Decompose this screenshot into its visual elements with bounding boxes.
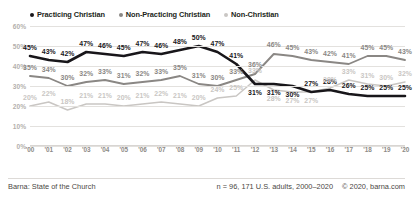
data-label-nonchristian: 20% [192,95,206,102]
data-label-nonpracticing: 45% [379,45,393,52]
data-label-nonchristian: 18% [61,99,75,106]
data-label-nonpracticing: 31% [192,73,206,80]
y-axis-tick-label: 20% [13,103,26,110]
chart-footer: Barna: State of the Church n = 96, 171 U… [8,182,405,191]
data-label-practicing: 47% [79,41,93,48]
x-axis-tick-label: '11 [232,146,240,153]
x-axis-tick-label: '18 [363,146,372,153]
data-label-nonchristian: 33% [248,68,262,75]
data-label-practicing: 25% [398,85,412,92]
x-axis-tick-label: '07 [157,146,166,153]
data-label-nonpracticing: 33% [98,69,112,76]
footer-meta: n = 96, 171 U.S. adults, 2000–2020 © 202… [217,182,405,191]
data-label-nonchristian: 33% [342,69,356,76]
data-label-nonpracticing: 32% [79,71,93,78]
data-label-nonchristian: 30% [379,75,393,82]
y-axis-tick-label: 60% [13,23,26,30]
data-label-practicing: 27% [304,81,318,88]
data-label-nonchristian: 27% [304,98,318,105]
legend-item-nonchristian[interactable]: Non-Christian [224,11,279,18]
data-label-nonpracticing: 32% [136,71,150,78]
data-label-practicing: 46% [154,43,168,50]
x-axis-tick-label: '13 [269,146,278,153]
data-label-practicing: 47% [211,41,225,48]
x-axis-tick-label: '09 [194,146,203,153]
legend-label: Non-Practicing Christian [126,11,210,18]
data-label-practicing: 45% [117,45,131,52]
x-axis-tick-label: '00 [26,146,35,153]
x-axis-tick-label: '05 [119,146,128,153]
data-label-nonpracticing: 33% [229,69,243,76]
data-label-nonpracticing: 41% [342,53,356,60]
x-axis-tick-label: '06 [138,146,147,153]
legend-item-practicing[interactable]: Practicing Christian [30,11,105,18]
data-label-nonchristian: 31% [361,73,375,80]
chart-page: Practicing ChristianNon-Practicing Chris… [0,0,413,200]
x-axis-tick-label: '12 [251,146,260,153]
data-label-nonpracticing: 42% [323,51,337,58]
data-label-nonchristian: 20% [23,95,37,102]
x-axis-tick-label: '15 [307,146,316,153]
data-label-nonpracticing: 43% [304,49,318,56]
legend-item-nonpracticing[interactable]: Non-Practicing Christian [119,11,210,18]
y-axis-tick-label: 30% [13,83,26,90]
data-label-practicing: 25% [361,85,375,92]
x-axis-tick-label: '14 [288,146,297,153]
legend-label: Non-Christian [231,11,279,18]
x-axis-tick-label: '10 [213,146,222,153]
data-label-practicing: 46% [98,43,112,50]
data-label-nonchristian: 28% [267,96,281,103]
data-label-nonpracticing: 31% [117,73,131,80]
data-label-nonchristian: 21% [98,93,112,100]
data-label-nonchristian: 27% [286,98,300,105]
data-label-nonchristian: 21% [136,93,150,100]
x-axis-tick-label: '16 [326,146,335,153]
footer-copyright: © 2020, barna.com [342,182,405,191]
data-label-nonchristian: 22% [154,91,168,98]
footer-sample-size: n = 96, 171 U.S. adults, 2000–2020 [217,182,334,191]
x-axis-tick-label: '01 [44,146,53,153]
x-axis-tick-label: '08 [176,146,185,153]
data-label-practicing: 31% [248,90,262,97]
legend-dot-icon [119,13,123,17]
data-label-nonpracticing: 35% [23,65,37,72]
data-label-nonpracticing: 43% [398,49,412,56]
x-axis-tick-label: '20 [401,146,410,153]
footer-source: Barna: State of the Church [8,182,96,191]
data-label-nonchristian: 20% [117,95,131,102]
data-label-nonchristian: 24% [211,87,225,94]
legend-dot-icon [30,13,34,17]
x-axis-tick-label: '03 [82,146,91,153]
data-label-practicing: 42% [61,51,75,58]
data-label-nonpracticing: 45% [286,45,300,52]
data-label-nonchristian: 25% [229,85,243,92]
x-axis-tick-label: '02 [63,146,72,153]
data-label-nonchristian: 22% [42,91,56,98]
data-label-practicing: 26% [342,83,356,90]
x-axis-tick-label: '04 [101,146,110,153]
footer-divider [8,178,405,179]
plot-area: 0%10%20%30%40%50%60%45%43%42%47%46%45%47… [30,26,405,146]
data-label-nonpracticing: 46% [267,42,281,49]
x-axis-ticks: '00'01'02'03'04'05'06'07'08'09'10'11'12'… [30,146,405,158]
data-label-nonchristian: 21% [79,93,93,100]
data-label-practicing: 43% [42,49,56,56]
x-axis-tick-label: '19 [382,146,391,153]
data-label-practicing: 48% [173,39,187,46]
gridline [30,106,405,107]
data-label-nonchristian: 21% [173,93,187,100]
data-label-nonpracticing: 45% [361,45,375,52]
gridline [30,126,405,127]
data-label-nonchristian: 32% [398,71,412,78]
data-label-practicing: 47% [136,41,150,48]
data-label-nonpracticing: 30% [61,75,75,82]
gridline [30,26,405,27]
data-label-nonpracticing: 30% [211,75,225,82]
y-axis-tick-label: 10% [13,123,26,130]
data-label-nonchristian: 29% [323,77,337,84]
data-label-nonpracticing: 34% [42,67,56,74]
data-label-practicing: 45% [23,45,37,52]
data-label-practicing: 41% [229,53,243,60]
data-label-practicing: 25% [379,85,393,92]
y-axis-tick-label: 0% [16,143,26,150]
